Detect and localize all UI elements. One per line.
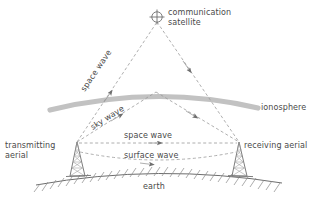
- diagram-canvas: [0, 0, 319, 201]
- propagation-diagram: communication satellite space wave sky w…: [0, 0, 319, 201]
- label-transmitting-aerial-line1: transmitting: [5, 141, 55, 151]
- label-earth: earth: [143, 182, 165, 192]
- label-communication-satellite-line1: communication: [168, 8, 231, 18]
- label-communication-satellite-line2: satellite: [168, 18, 201, 28]
- label-receiving-aerial: receiving aerial: [244, 141, 307, 151]
- label-transmitting-aerial-line2: aerial: [5, 151, 28, 161]
- arrow-space-wave-down: [183, 61, 190, 71]
- label-ionosphere: ionosphere: [261, 103, 306, 113]
- ionosphere-arc-icon: [50, 96, 258, 110]
- satellite-crosshair-icon: [150, 10, 165, 25]
- label-space-wave-direct: space wave: [124, 131, 172, 141]
- arrow-sky-wave-down: [186, 111, 196, 117]
- path-space-wave-down: [157, 22, 239, 142]
- label-surface-wave: surface wave: [124, 151, 178, 161]
- arrow-surface-wave: [140, 163, 152, 165]
- antenna-mast-icon-transmitting: [66, 142, 91, 177]
